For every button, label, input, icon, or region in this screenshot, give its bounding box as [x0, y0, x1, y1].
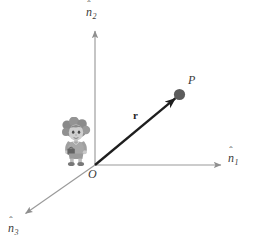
axis-label-n2: ˆn2 [86, 6, 97, 21]
axis-subscript: 1 [235, 158, 239, 167]
axis-symbol-n2: ˆn [86, 6, 92, 18]
vector-diagram-figure: ˆn2 ˆn1 ˆn3 O P r [0, 0, 259, 247]
axis-label-n3: ˆn3 [8, 222, 19, 237]
cartoon-observer-icon [58, 117, 94, 167]
axis-symbol-n3: ˆn [8, 222, 14, 234]
axis-subscript: 3 [15, 228, 19, 237]
observer-illustration [58, 117, 94, 167]
diagram-canvas [0, 0, 259, 247]
hat-accent-icon: ˆ [87, 0, 90, 10]
axis-label-n1: ˆn1 [228, 152, 239, 167]
hat-accent-icon: ˆ [9, 216, 12, 226]
hat-accent-icon: ˆ [229, 146, 232, 156]
point-p-marker [174, 89, 185, 100]
vector-label-r: r [133, 110, 138, 121]
axis-line-n3 [26, 165, 96, 214]
point-label-p: P [188, 74, 195, 86]
axis-subscript: 2 [93, 12, 97, 21]
axis-symbol-n1: ˆn [228, 152, 234, 164]
origin-label: O [88, 168, 97, 180]
